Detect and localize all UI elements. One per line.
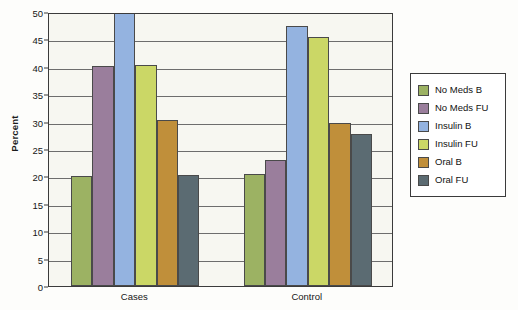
plot-area: [48, 13, 393, 287]
legend-swatch-icon: [418, 157, 429, 168]
bar: [135, 65, 156, 286]
x-axis-label-cases: Cases: [121, 291, 148, 302]
legend-swatch-icon: [418, 121, 429, 132]
legend-swatch-icon: [418, 85, 429, 96]
bar: [286, 26, 307, 286]
legend-item-label: Insulin B: [435, 121, 471, 131]
y-tick-label: 50: [1, 8, 43, 19]
y-tick-label: 15: [1, 199, 43, 210]
bar: [114, 14, 135, 286]
bar: [178, 175, 199, 286]
bar: [351, 134, 372, 286]
x-axis-label-control: Control: [291, 291, 322, 302]
bar-chart: Percent 05101520253035404550 CasesContro…: [0, 0, 518, 310]
legend-item-label: Oral FU: [435, 175, 468, 185]
bar: [92, 66, 113, 286]
bar: [308, 37, 329, 286]
y-tick-label: 10: [1, 227, 43, 238]
legend-item-label: Insulin FU: [435, 139, 478, 149]
bar: [329, 123, 350, 286]
bar: [157, 120, 178, 286]
y-tick-label: 25: [1, 145, 43, 156]
y-axis-title: Percent: [9, 99, 20, 169]
legend-item[interactable]: No Meds B: [418, 81, 499, 99]
legend-swatch-icon: [418, 103, 429, 114]
bar: [265, 160, 286, 286]
y-tick-label: 40: [1, 62, 43, 73]
y-tick-label: 45: [1, 35, 43, 46]
legend-item[interactable]: Oral FU: [418, 171, 499, 189]
legend-item[interactable]: No Meds FU: [418, 99, 499, 117]
legend-item-label: No Meds FU: [435, 103, 488, 113]
legend-swatch-icon: [418, 139, 429, 150]
legend-item[interactable]: Oral B: [418, 153, 499, 171]
legend: No Meds BNo Meds FUInsulin BInsulin FUOr…: [410, 73, 506, 197]
y-tick-label: 5: [1, 254, 43, 265]
y-tick-label: 0: [1, 282, 43, 293]
x-axis-group-labels: CasesControl: [48, 289, 393, 309]
legend-item-label: No Meds B: [435, 85, 482, 95]
bar: [71, 176, 92, 286]
legend-item-label: Oral B: [435, 157, 462, 167]
bars-layer: [49, 14, 392, 286]
y-tick-label: 35: [1, 90, 43, 101]
bar: [244, 174, 265, 286]
y-tick-label: 20: [1, 172, 43, 183]
y-tick-label: 30: [1, 117, 43, 128]
legend-item[interactable]: Insulin B: [418, 117, 499, 135]
legend-swatch-icon: [418, 175, 429, 186]
legend-item[interactable]: Insulin FU: [418, 135, 499, 153]
